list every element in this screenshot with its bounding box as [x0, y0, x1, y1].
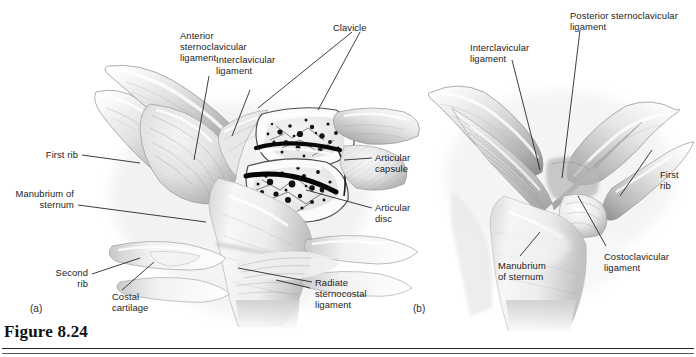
label-costal-cartilage: Costal cartilage: [112, 291, 148, 313]
label-radiate-sternocostal-ligament: Radiate sternocostal ligament: [315, 277, 367, 311]
label-first-rib-b: First rib: [660, 169, 679, 191]
figure-8-24: Anterior sternoclavicular ligament Inter…: [0, 0, 696, 357]
label-posterior-sternoclavicular-ligament: Posterior sternoclavicular ligament: [570, 10, 678, 32]
label-second-rib: Second rib: [0, 267, 88, 289]
label-articular-disc: Articular disc: [375, 202, 410, 224]
figure-caption: Figure 8.24: [4, 322, 88, 342]
label-manubrium-of-sternum-b: Manubrium of sternum: [498, 260, 546, 282]
caption-rule-secondary: [2, 353, 694, 354]
label-costoclavicular-ligament: Costoclavicular ligament: [604, 251, 669, 273]
panel-marker-b: (b): [413, 303, 425, 314]
label-first-rib-a: First rib: [0, 149, 78, 160]
caption-rule: [2, 348, 694, 349]
label-clavicle: Clavicle: [333, 22, 367, 33]
label-interclavicular-ligament-a: Interclavicular ligament: [216, 54, 275, 76]
panel-marker-a: (a): [30, 303, 42, 314]
label-articular-capsule: Articular capsule: [375, 152, 410, 174]
label-interclavicular-ligament-b: Interclavicular ligament: [470, 42, 529, 64]
label-manubrium-of-sternum-a: Manubrium of sternum: [0, 188, 74, 210]
